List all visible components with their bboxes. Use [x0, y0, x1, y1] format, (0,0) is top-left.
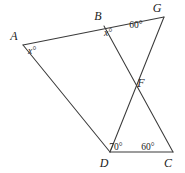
- point-label-G: G: [153, 1, 162, 15]
- angle-label-at-B: x°: [103, 28, 112, 38]
- segment-A-D: [23, 45, 110, 152]
- geometry-figure: A B G F D C x° x° 60° 70° 60°: [0, 0, 185, 173]
- point-label-D: D: [99, 156, 109, 170]
- angle-label-at-C: 60°: [141, 142, 155, 152]
- point-label-A: A: [9, 29, 18, 43]
- angle-label-group: x° x° 60° 70° 60°: [27, 20, 155, 152]
- angle-label-at-A: x°: [27, 46, 36, 56]
- point-label-B: B: [94, 9, 102, 23]
- angle-label-at-G: 60°: [129, 20, 143, 30]
- segment-group: [23, 17, 173, 152]
- point-label-C: C: [164, 156, 173, 170]
- angle-label-at-D: 70°: [109, 142, 123, 152]
- point-label-F: F: [136, 76, 145, 90]
- geometry-canvas: A B G F D C x° x° 60° 70° 60°: [0, 0, 185, 173]
